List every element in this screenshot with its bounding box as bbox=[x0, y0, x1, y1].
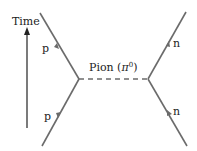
proton-label-bottom: p bbox=[44, 110, 51, 123]
feynman-diagram: Time p p Pion (π0) n n bbox=[0, 0, 197, 151]
neutron-label-bottom: n bbox=[173, 105, 180, 118]
time-arrow-icon bbox=[24, 27, 30, 35]
neutron-label-top: n bbox=[173, 37, 180, 50]
proton-label-top: p bbox=[42, 42, 49, 55]
pion-label: Pion (π0) bbox=[89, 61, 137, 74]
time-label: Time bbox=[12, 15, 40, 28]
